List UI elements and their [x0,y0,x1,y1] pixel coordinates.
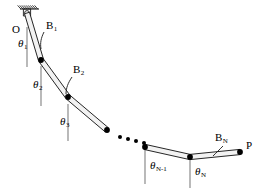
joints-group [38,57,243,160]
link-B3 [66,95,108,132]
link-B2 [39,58,70,98]
joint-dot-JA [142,144,148,150]
leader-B1 [41,32,44,49]
ellipsis-dot-4 [142,141,146,145]
ellipsis-dots-group [118,135,146,145]
pendulum-chain-diagram: O P B1 B2 BN θ1 θ2 θ3 θN-1 θN [0,0,266,193]
link-Bk [144,144,190,159]
joint-dot-J2 [65,94,71,100]
ellipsis-dot-2 [126,137,130,141]
diagram-canvas [0,0,266,193]
joint-dot-J3 [104,127,110,133]
label-endpoint-P: P [246,140,252,151]
ellipsis-dot-1 [118,135,122,139]
label-angle-theta-n: θN [195,166,205,177]
label-angle-theta2: θ2 [33,79,42,90]
label-body-b1: B1 [46,20,57,31]
joint-dot-P [237,149,243,155]
label-angle-theta-n-minus-1: θN-1 [150,160,166,171]
label-origin-O: O [12,24,20,35]
joint-dot-JB [187,154,193,160]
label-body-bn: BN [215,132,227,143]
label-angle-theta3: θ3 [60,116,69,127]
label-angle-theta1: θ1 [18,38,27,49]
label-body-b2: B2 [73,64,84,75]
ellipsis-dot-3 [134,139,138,143]
joint-dot-J1 [38,57,44,63]
links-group [25,12,241,159]
